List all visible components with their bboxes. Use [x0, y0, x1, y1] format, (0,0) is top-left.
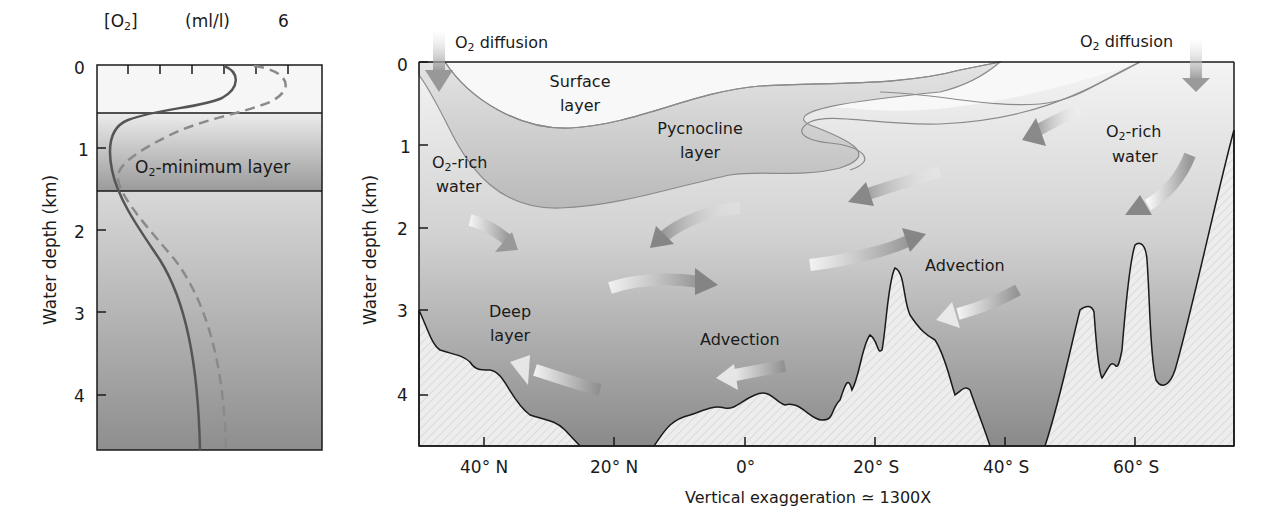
left-depth-tick-4: 4: [74, 386, 85, 406]
surface-layer-label-2: layer: [540, 97, 620, 115]
o2-diffusion-right-label: O2 diffusion: [1080, 33, 1173, 51]
o2-axis-label: [O2]: [104, 12, 138, 30]
o2-diffusion-left-label: O2 diffusion: [455, 34, 548, 52]
left-depth-tick-3: 3: [74, 304, 85, 324]
lat-tick-20n: 20° N: [590, 457, 638, 477]
o2-rich-right-label-1: O2-rich: [1106, 123, 1161, 141]
left-y-axis-title: Water depth (km): [40, 185, 60, 325]
lat-tick-40s: 40° S: [983, 457, 1029, 477]
lat-tick-60s: 60° S: [1113, 457, 1159, 477]
left-depth-tick-1: 1: [78, 140, 89, 160]
advection-label-lower: Advection: [700, 331, 780, 349]
pycnocline-label-2: layer: [650, 144, 750, 162]
pycnocline-label-1: Pycnocline: [650, 120, 750, 138]
vertical-exaggeration-caption: Vertical exaggeration ≃ 1300X: [685, 489, 931, 507]
main-depth-tick-1: 1: [400, 137, 411, 157]
o2-profile-graphic: [0, 0, 1261, 530]
o2-max-tick: 6: [278, 12, 289, 30]
left-depth-tick-2: 2: [74, 222, 85, 242]
main-depth-tick-2: 2: [397, 219, 408, 239]
advection-label-right: Advection: [925, 257, 1005, 275]
deep-layer-label-2: layer: [480, 327, 540, 345]
main-depth-tick-0: 0: [397, 55, 408, 75]
deep-layer-label-1: Deep: [480, 303, 540, 321]
lat-tick-40n: 40° N: [460, 457, 508, 477]
o2-rich-left-label-2: water: [436, 178, 482, 196]
main-depth-tick-4: 4: [397, 385, 408, 405]
surface-layer-label-1: Surface: [540, 73, 620, 91]
left-depth-tick-0: 0: [74, 58, 85, 78]
o2-minimum-layer-label: O2-minimum layer: [135, 158, 290, 176]
lat-tick-20s: 20° S: [853, 457, 899, 477]
o2-units-label: (ml/l): [185, 12, 230, 30]
o2-rich-right-label-2: water: [1112, 148, 1158, 166]
main-y-axis-title: Water depth (km): [360, 185, 380, 325]
main-depth-tick-3: 3: [397, 301, 408, 321]
lat-tick-0: 0°: [736, 457, 755, 477]
o2-rich-left-label-1: O2-rich: [432, 154, 487, 172]
